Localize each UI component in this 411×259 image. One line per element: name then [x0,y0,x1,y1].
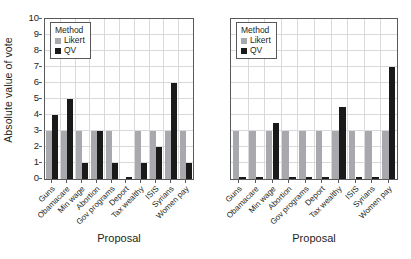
legend-label-qv: QV [64,46,76,55]
figure: Absolute value of vote 012345678910 Meth… [0,0,411,259]
x-axis-tick-mark [155,180,156,183]
bar-qv-obamacare [67,99,73,179]
bar-qv-guns [239,177,246,179]
legend-swatch-likert-icon [55,38,61,44]
bar-qv-isis [356,177,363,179]
legend-right: Method Likert QV [236,22,277,59]
x-axis-tick-mark [255,180,256,183]
chart-panel-right: Method Likert QV GunsObamacareMin wageAb… [206,0,411,259]
bar-likert-min-wage [266,131,273,179]
x-axis-tick-mark [288,180,289,183]
x-axis-tick-mark [125,180,126,183]
y-axis-ticks-left: 012345678910 [18,18,42,180]
bar-likert-gov-programs [299,131,306,179]
legend-title: Method [55,25,85,35]
x-axis-ticks-left: GunsObamacareMin wageAbortionGov program… [44,180,194,240]
bar-qv-deport [322,177,329,179]
bar-qv-women-pay [389,67,396,179]
y-axis-tick-mark [39,178,42,179]
x-axis-title-left: Proposal [44,232,194,244]
y-axis-tick-mark [39,18,42,19]
bar-qv-min-wage [82,163,88,179]
y-axis-tick-mark [39,98,42,99]
x-axis-tick-mark [321,180,322,183]
bar-likert-women-pay [382,131,389,179]
legend-swatch-qv-icon [241,48,247,54]
legend-item-qv: QV [55,46,85,55]
x-axis-tick-mark [355,180,356,183]
y-axis-tick-mark [39,162,42,163]
y-axis-tick-mark [39,82,42,83]
bar-qv-guns [52,115,58,179]
x-axis-title-right: Proposal [230,232,398,244]
bar-qv-min-wage [273,123,280,179]
y-axis-title-wrap: Absolute value of vote [0,0,20,190]
legend-item-qv: QV [241,46,271,55]
x-axis-tick-mark [338,180,339,183]
chart-panel-left: Absolute value of vote 012345678910 Meth… [0,0,205,259]
bar-qv-gov-programs [306,177,313,179]
bar-qv-obamacare [256,177,263,179]
y-axis-tick-mark [39,34,42,35]
legend-swatch-likert-icon [241,38,247,44]
legend-left: Method Likert QV [50,22,91,59]
bar-qv-women-pay [186,163,192,179]
x-axis-tick-mark [238,180,239,183]
y-axis-tick-mark [39,146,42,147]
legend-item-likert: Likert [55,36,85,45]
legend-label-likert: Likert [64,36,85,45]
x-axis-tick-mark [272,180,273,183]
bar-qv-deport [126,177,132,179]
bar-likert-guns [233,131,240,179]
bar-likert-obamacare [249,131,256,179]
legend-title: Method [241,25,271,35]
x-axis-tick-mark [51,180,52,183]
y-axis-tick-mark [39,114,42,115]
bar-qv-tax-wealthy [339,107,346,179]
bar-likert-deport [316,131,323,179]
bar-qv-tax-wealthy [141,163,147,179]
x-axis-ticks-right: GunsObamacareMin wageAbortionGov program… [230,180,398,240]
y-axis-tick-mark [39,66,42,67]
bar-qv-gov-programs [112,163,118,179]
x-axis-tick-mark [305,180,306,183]
y-axis-tick-label: 10 [28,13,39,23]
legend-item-likert: Likert [241,36,271,45]
x-axis-tick-mark [185,180,186,183]
x-axis-tick-mark [96,180,97,183]
x-axis-tick-mark [371,180,372,183]
x-axis-tick-mark [170,180,171,183]
legend-label-qv: QV [250,46,262,55]
x-axis-tick-mark [111,180,112,183]
bar-qv-abortion [97,131,103,179]
bar-likert-syrians [365,131,372,179]
y-axis-tick-mark [39,50,42,51]
x-axis-tick-mark [81,180,82,183]
x-axis-tick-mark [388,180,389,183]
legend-swatch-qv-icon [55,48,61,54]
x-axis-tick-mark [66,180,67,183]
legend-label-likert: Likert [250,36,271,45]
y-axis-tick-mark [39,130,42,131]
bar-likert-tax-wealthy [332,131,339,179]
bar-qv-syrians [171,83,177,179]
bar-qv-isis [156,147,162,179]
bar-likert-abortion [282,131,289,179]
bar-likert-isis [349,131,356,179]
x-axis-tick-mark [140,180,141,183]
bar-qv-abortion [289,177,296,179]
bar-qv-syrians [372,177,379,179]
y-axis-title: Absolute value of vote [2,20,16,160]
